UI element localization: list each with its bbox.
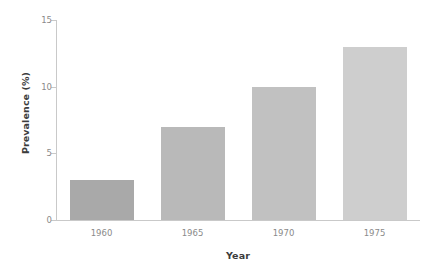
y-axis-title-container: Prevalence (%)	[14, 0, 36, 248]
y-axis-tick-label: 5	[47, 148, 52, 158]
y-axis-tick-label: 15	[41, 15, 52, 25]
y-axis-tick-label: 0	[47, 215, 52, 225]
y-axis-line	[56, 20, 57, 221]
bar-1960[interactable]	[70, 180, 134, 220]
x-axis-tick-label: 1965	[182, 228, 204, 238]
x-axis-line	[56, 220, 420, 221]
bar-1965[interactable]	[161, 127, 225, 220]
bar-chart-figure: Prevalence (%) 051015 1960196519701975 Y…	[0, 0, 434, 270]
plot-area: 051015 1960196519701975	[56, 20, 420, 221]
x-axis-tick-label: 1975	[364, 228, 386, 238]
x-axis-title: Year	[56, 250, 420, 261]
y-axis-tick-label: 10	[41, 82, 52, 92]
x-axis-tick-label: 1960	[91, 228, 113, 238]
bar-1975[interactable]	[343, 47, 407, 220]
bar-1970[interactable]	[252, 87, 316, 220]
y-axis-title: Prevalence (%)	[14, 0, 36, 248]
x-axis-tick-label: 1970	[273, 228, 295, 238]
